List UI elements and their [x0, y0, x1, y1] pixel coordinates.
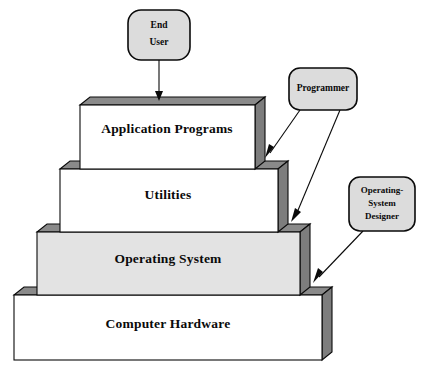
application-programs-label: Application Programs [101, 121, 233, 136]
connector-os-designer-to-operating-system [313, 231, 363, 283]
programmer-label: Programmer [297, 83, 350, 93]
diagram-canvas: Computer Hardware Operating System Utili… [0, 0, 426, 369]
os-designer-arrow-head [313, 268, 323, 283]
os-designer-label-line-1: Operating- [361, 185, 404, 195]
actor-operating-system-designer[interactable]: Operating- System Designer [349, 177, 415, 231]
operating-system-label: Operating System [114, 251, 222, 266]
layer-computer-hardware[interactable]: Computer Hardware [14, 287, 332, 360]
programmer-utilities-arrow-head [291, 208, 301, 222]
programmer-apps-arrow-head [265, 144, 274, 158]
utilities-side-face [278, 161, 288, 232]
end-user-label-line-1: End [151, 20, 169, 30]
application-programs-front-face [80, 105, 255, 169]
computer-hardware-side-face [322, 287, 332, 360]
application-programs-top-face [80, 97, 265, 105]
connector-programmer-to-application-programs [265, 110, 300, 158]
os-designer-arrow-line [319, 231, 363, 277]
os-designer-label-line-2: System [368, 198, 396, 208]
layer-application-programs[interactable]: Application Programs [80, 97, 265, 169]
layer-utilities[interactable]: Utilities [60, 161, 288, 232]
operating-system-side-face [300, 224, 310, 295]
actor-programmer[interactable]: Programmer [289, 68, 357, 110]
connector-programmer-to-utilities [291, 110, 340, 222]
actor-end-user[interactable]: End User [128, 10, 190, 60]
programmer-apps-arrow-line [270, 110, 300, 153]
connector-end-user-to-application-programs [155, 60, 163, 101]
computer-hardware-label: Computer Hardware [106, 316, 231, 331]
layer-operating-system[interactable]: Operating System [37, 224, 310, 295]
end-user-label-line-2: User [150, 37, 170, 47]
application-programs-side-face [255, 97, 265, 169]
os-designer-label-line-3: Designer [365, 211, 399, 221]
os-layers-diagram: Computer Hardware Operating System Utili… [0, 0, 426, 369]
end-user-box [128, 10, 190, 60]
utilities-label: Utilities [145, 187, 192, 202]
programmer-utilities-arrow-line [296, 110, 340, 215]
